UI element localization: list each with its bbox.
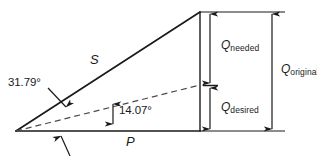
q-desired-symbol: Q — [221, 100, 230, 114]
dashed-desired-line — [16, 85, 200, 131]
q-desired-subscript: desired — [230, 105, 259, 115]
diagram-canvas — [0, 0, 317, 156]
q-needed-subscript: needed — [230, 43, 259, 53]
leader-line-base-pointer — [61, 136, 70, 156]
q-original-symbol: Q — [281, 62, 290, 76]
q-desired-label: Qdesired — [221, 101, 259, 113]
q-original-subscript: original — [290, 67, 317, 77]
hypotenuse-line-s — [16, 12, 200, 131]
q-needed-label: Qneeded — [221, 39, 259, 51]
angle-original-label: 31.79° — [8, 77, 41, 89]
power-triangle-diagram: 31.79° 14.07° S P Qneeded Qdesired Qorig… — [0, 0, 317, 156]
q-needed-symbol: Q — [221, 38, 230, 52]
vector-s-label: S — [90, 53, 99, 66]
angle-desired-label: 14.07° — [119, 105, 152, 117]
q-original-label: Qoriginal — [281, 63, 317, 75]
vector-p-label: P — [126, 135, 135, 148]
